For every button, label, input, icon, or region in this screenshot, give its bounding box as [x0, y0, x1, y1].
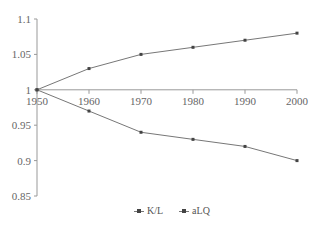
legend-label: K/L	[147, 205, 163, 216]
data-point-marker	[192, 46, 195, 49]
chart-axes: 0.850.90.9511.051.1195019601970198019902…	[12, 13, 309, 202]
data-point-marker	[296, 32, 299, 35]
x-tick-label: 1950	[26, 95, 49, 107]
data-point-marker	[244, 39, 247, 42]
data-point-marker	[140, 53, 143, 56]
data-point-marker	[296, 159, 299, 162]
data-point-marker	[140, 131, 143, 134]
x-tick-label: 2000	[286, 95, 309, 107]
legend-marker-icon	[134, 206, 144, 216]
y-tick-label: 1.05	[12, 48, 32, 60]
y-tick-label: 1.1	[17, 13, 31, 25]
line-chart: 0.850.90.9511.051.1195019601970198019902…	[0, 0, 322, 228]
data-point-marker	[192, 138, 195, 141]
chart-legend: K/L aLQ	[134, 205, 210, 216]
series-line	[37, 90, 297, 161]
x-tick-label: 1970	[130, 95, 153, 107]
data-point-marker	[244, 145, 247, 148]
data-point-marker	[88, 67, 91, 70]
x-tick-label: 1960	[78, 95, 101, 107]
chart-series	[36, 32, 299, 162]
x-tick-label: 1980	[182, 95, 205, 107]
data-point-marker	[88, 110, 91, 113]
y-tick-label: 0.9	[17, 155, 31, 167]
legend-item-alq: aLQ	[179, 205, 210, 216]
x-tick-label: 1990	[234, 95, 257, 107]
y-tick-label: 0.85	[12, 190, 32, 202]
data-point-marker	[36, 88, 39, 91]
legend-item-kl: K/L	[134, 205, 163, 216]
series-line	[37, 33, 297, 90]
y-tick-label: 0.95	[12, 119, 32, 131]
legend-marker-icon	[179, 206, 189, 216]
legend-label: aLQ	[192, 205, 210, 216]
